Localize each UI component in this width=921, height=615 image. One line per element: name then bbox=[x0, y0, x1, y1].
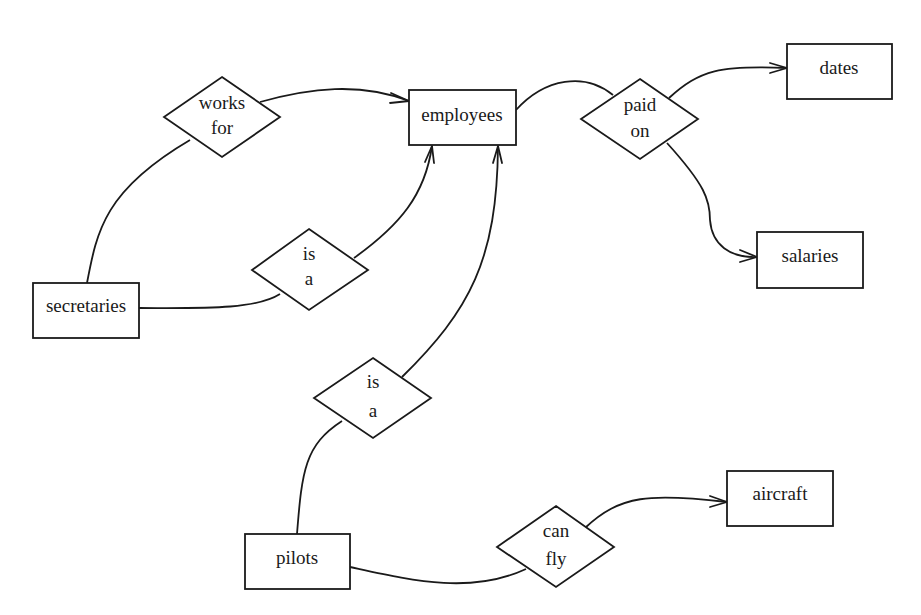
relationship-label-line2: on bbox=[631, 120, 651, 141]
entity-label: aircraft bbox=[753, 483, 809, 504]
edge-employees-paid-on bbox=[516, 81, 613, 110]
entity-label: salaries bbox=[782, 245, 839, 266]
relationship-is-a-secretaries[interactable]: is a bbox=[252, 229, 368, 310]
edge-paid-on-dates bbox=[669, 67, 787, 98]
edge-is-a-employees-2 bbox=[402, 146, 498, 377]
relationship-label-line1: works bbox=[199, 92, 245, 113]
relationship-label-line2: a bbox=[369, 400, 378, 421]
entity-dates[interactable]: dates bbox=[787, 44, 892, 99]
edge-is-a-employees-1 bbox=[354, 146, 432, 258]
relationship-label-line2: a bbox=[305, 268, 314, 289]
entity-pilots[interactable]: pilots bbox=[245, 534, 350, 589]
entity-aircraft[interactable]: aircraft bbox=[727, 471, 833, 526]
relationship-label-line1: is bbox=[367, 371, 380, 392]
relationship-label-line1: can bbox=[543, 520, 570, 541]
edge-secretaries-is-a bbox=[139, 294, 280, 308]
relationship-label-line1: paid bbox=[624, 94, 657, 115]
entity-employees[interactable]: employees bbox=[409, 90, 516, 145]
edge-pilots-can-fly bbox=[350, 567, 526, 583]
edge-pilots-is-a bbox=[297, 421, 342, 534]
entity-label: employees bbox=[421, 104, 502, 125]
relationship-is-a-pilots[interactable]: is a bbox=[314, 358, 431, 438]
entity-label: secretaries bbox=[46, 295, 126, 316]
er-diagram: employees dates salaries secretaries pil… bbox=[0, 0, 921, 615]
entity-label: pilots bbox=[276, 547, 318, 568]
edge-paid-on-salaries bbox=[667, 143, 757, 257]
relationship-paid-on[interactable]: paid on bbox=[581, 79, 698, 159]
edge-works-for-employees bbox=[260, 89, 409, 102]
relationship-label-line1: is bbox=[303, 243, 316, 264]
relationship-label-line2: for bbox=[211, 117, 234, 138]
entity-label: dates bbox=[819, 57, 858, 78]
edge-secretaries-works-for bbox=[87, 140, 190, 283]
edge-can-fly-aircraft bbox=[585, 497, 727, 528]
entity-secretaries[interactable]: secretaries bbox=[33, 283, 139, 338]
entity-salaries[interactable]: salaries bbox=[757, 232, 863, 288]
relationship-label-line2: fly bbox=[545, 548, 567, 569]
